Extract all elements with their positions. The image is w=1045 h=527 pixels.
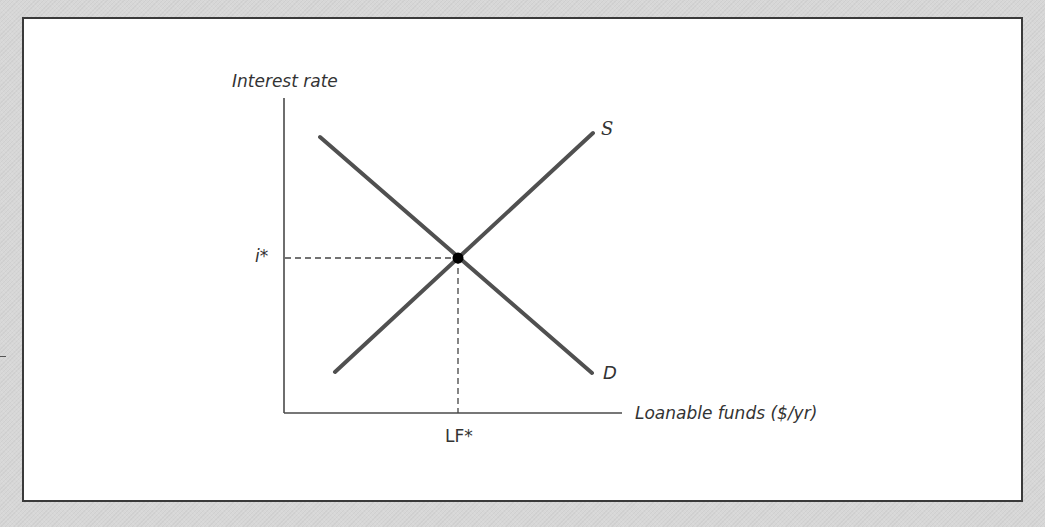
supply-curve [335,133,593,372]
equilibrium-point [453,253,464,264]
x-axis-label: Loanable funds ($/yr) [635,403,817,423]
equilibrium-quantity-label: LF* [445,426,473,446]
demand-label: D [603,362,617,383]
y-axis-label: Interest rate [232,71,338,91]
loanable-funds-diagram [0,0,1045,527]
equilibrium-rate-label: i* [255,246,268,266]
supply-label: S [601,118,613,139]
